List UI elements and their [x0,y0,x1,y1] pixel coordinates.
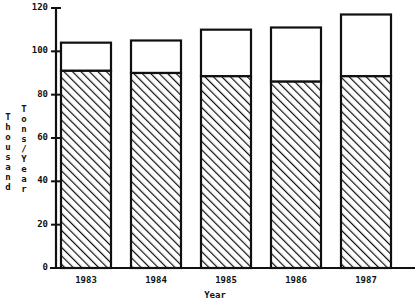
bar-group [201,30,251,268]
y-tick-label: 20 [22,220,48,229]
bar-group [341,15,391,269]
bar-segment-upper [341,15,391,77]
bar-segment-lower [341,76,391,268]
bar-group [271,28,321,269]
bar-segment-lower [201,76,251,268]
bar-segment-upper [61,43,111,71]
bar-segment-lower [61,71,111,268]
y-tick-label: 60 [22,133,48,142]
x-tick-label: 1987 [338,275,394,285]
bar-chart: T h o u s a n d T o n s / Y e a r 020406… [0,0,420,304]
y-tick-label: 80 [22,90,48,99]
x-axis-title: Year [185,290,245,300]
y-tick-label: 120 [22,3,48,12]
y-tick-label: 40 [22,176,48,185]
y-tick-label: 0 [22,263,48,272]
bar-segment-upper [271,28,321,82]
x-tick-label: 1986 [268,275,324,285]
bar-segment-upper [201,30,251,77]
x-tick-label: 1985 [198,275,254,285]
bar-group [61,43,111,268]
bar-group [131,41,181,269]
x-tick-label: 1984 [128,275,184,285]
y-tick-label: 100 [22,46,48,55]
x-tick-label: 1983 [58,275,114,285]
bar-segment-lower [131,73,181,268]
plot-area [0,0,420,304]
bar-segment-upper [131,41,181,74]
bar-series [61,15,391,269]
bar-segment-lower [271,82,321,268]
